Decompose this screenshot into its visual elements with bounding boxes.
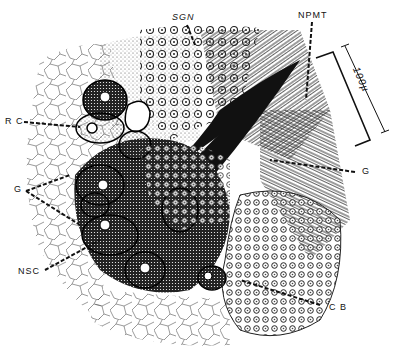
- label-rc: R C: [5, 116, 24, 126]
- label-nsc: NSC: [18, 266, 40, 276]
- label-g-right: G: [362, 166, 370, 176]
- cell-body-cluster: [222, 191, 341, 336]
- label-cb: C B: [329, 302, 347, 312]
- label-sgn: SGN: [172, 12, 195, 22]
- label-g-left: G: [14, 184, 22, 194]
- label-npmt: NPMT: [298, 10, 328, 20]
